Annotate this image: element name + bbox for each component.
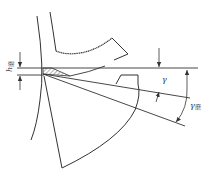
rake-face-line bbox=[43, 74, 190, 98]
gamma-dimension bbox=[156, 48, 159, 102]
chip-underside-curve bbox=[70, 66, 105, 76]
label-gamma: γ bbox=[162, 75, 167, 84]
chip-breaker-step bbox=[116, 75, 138, 84]
tool-geometry-diagram: h磨 γ γ磨 bbox=[0, 0, 210, 180]
label-h-ground: h磨 bbox=[5, 61, 15, 72]
chip bbox=[50, 12, 128, 60]
tool-flank bbox=[44, 76, 62, 168]
label-gamma-ground: γ磨 bbox=[190, 101, 201, 111]
workpiece-surface bbox=[31, 16, 42, 140]
tool-body-arc bbox=[62, 84, 139, 168]
